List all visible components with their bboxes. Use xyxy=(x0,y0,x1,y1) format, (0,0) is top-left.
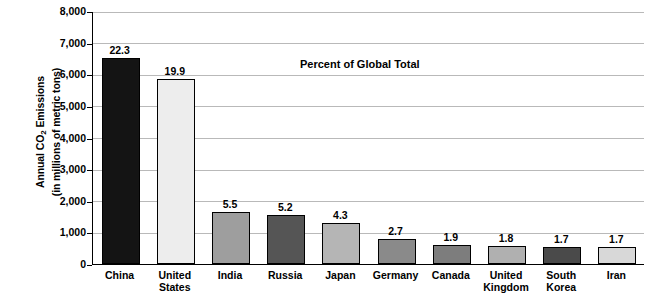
y-axis-tick-label: 6,000 xyxy=(44,68,86,80)
bar xyxy=(322,223,360,264)
bar-value-label: 1.9 xyxy=(421,231,481,243)
y-axis-tick-label: 4,000 xyxy=(44,132,86,144)
bar-value-label: 5.5 xyxy=(200,198,260,210)
y-axis-tick-label: 5,000 xyxy=(44,100,86,112)
y-axis-tick-mark xyxy=(87,139,92,140)
x-axis-category-label: Iran xyxy=(582,270,650,282)
bar-value-label: 1.7 xyxy=(586,233,646,245)
gridline xyxy=(93,12,644,13)
y-axis-tick-mark xyxy=(87,107,92,108)
y-axis-tick-label: 2,000 xyxy=(44,195,86,207)
bar xyxy=(267,215,305,264)
bar xyxy=(598,247,636,264)
bar xyxy=(488,246,526,264)
bar-value-label: 1.7 xyxy=(531,233,591,245)
co2-emissions-bar-chart: Annual CO2 Emissions (in millions of met… xyxy=(0,0,661,301)
y-axis-tick-mark xyxy=(87,265,92,266)
y-axis-tick-mark xyxy=(87,170,92,171)
y-axis-tick-label: 7,000 xyxy=(44,37,86,49)
bar xyxy=(378,239,416,264)
bar-value-label: 2.7 xyxy=(366,225,426,237)
y-axis-tick-label: 0 xyxy=(44,258,86,270)
bar-value-label: 22.3 xyxy=(90,44,150,56)
gridline xyxy=(93,43,644,44)
y-axis-tick-label: 3,000 xyxy=(44,163,86,175)
bar-value-label: 5.2 xyxy=(255,201,315,213)
bar xyxy=(433,245,471,264)
y-axis-tick-mark xyxy=(87,75,92,76)
y-axis-tick-label: 1,000 xyxy=(44,226,86,238)
bar xyxy=(157,79,195,264)
y-axis-tick-label: 8,000 xyxy=(44,5,86,17)
bar xyxy=(212,212,250,264)
y-axis-tick-mark xyxy=(87,233,92,234)
bar-value-label: 19.9 xyxy=(145,65,205,77)
bar-value-label: 1.8 xyxy=(476,232,536,244)
bar xyxy=(543,247,581,264)
bar-value-label: 4.3 xyxy=(310,209,370,221)
y-axis-tick-mark xyxy=(87,202,92,203)
chart-annotation: Percent of Global Total xyxy=(300,58,420,70)
bar xyxy=(102,58,140,264)
y-axis-tick-mark xyxy=(87,12,92,13)
